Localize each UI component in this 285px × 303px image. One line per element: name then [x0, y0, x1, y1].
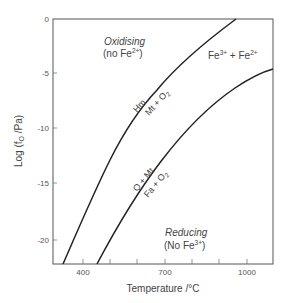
y-axis: [53, 73, 57, 240]
reducing-label: Reducing: [165, 227, 208, 238]
x-tick-label: 1000: [238, 268, 256, 277]
y-tick-label: -20: [37, 236, 49, 245]
x-axis: [83, 259, 247, 264]
chart: 0 -5 -10 -15 -20 400 700 1000 Temperatur…: [0, 0, 285, 303]
y-tick-label: -15: [37, 179, 49, 188]
y-tick-label: 0: [45, 15, 50, 24]
y-axis-title: Log (fO /Pa): [13, 115, 25, 167]
mt-o2-label: Mt + O2: [143, 87, 172, 118]
oxidising-sub: (no Fe2+): [103, 47, 143, 59]
y-tick-label: -10: [37, 124, 49, 133]
x-tick-label: 400: [76, 268, 90, 277]
x-tick-label: 700: [158, 268, 172, 277]
fe-mixed-label: Fe3+ + Fe2+: [208, 49, 258, 61]
reducing-sub: (No Fe3+): [164, 239, 205, 251]
y-tick-label: -5: [42, 69, 50, 78]
x-axis-title: Temperature /°C: [127, 283, 200, 294]
oxidising-label: Oxidising: [104, 36, 146, 47]
